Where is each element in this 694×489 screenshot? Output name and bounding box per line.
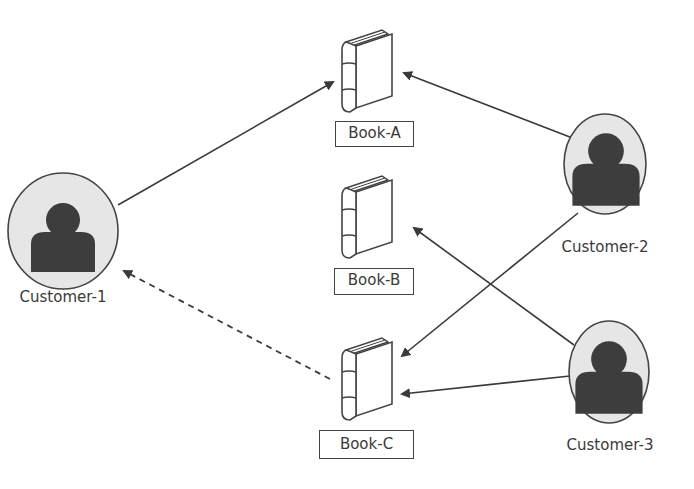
- book-a-label: Book-A: [335, 121, 414, 147]
- edge-customer1-bookA: [118, 82, 333, 205]
- edge-bookC-customer1-dashed: [124, 271, 330, 379]
- edge-customer3-bookC: [402, 376, 570, 394]
- book-c-icon[interactable]: [342, 338, 392, 420]
- book-a-icon[interactable]: [342, 30, 392, 112]
- customer-3-label: Customer-3: [550, 436, 670, 454]
- customer-1-node[interactable]: [8, 173, 118, 289]
- book-b-icon[interactable]: [342, 176, 392, 258]
- customer-3-node[interactable]: [569, 321, 649, 423]
- customer-2-label: Customer-2: [545, 238, 665, 256]
- book-b-label: Book-B: [334, 268, 414, 295]
- customer-2-node[interactable]: [564, 114, 646, 214]
- customer-1-label: Customer-1: [3, 288, 123, 306]
- book-c-label: Book-C: [319, 430, 414, 459]
- edge-customer2-bookA: [404, 73, 575, 139]
